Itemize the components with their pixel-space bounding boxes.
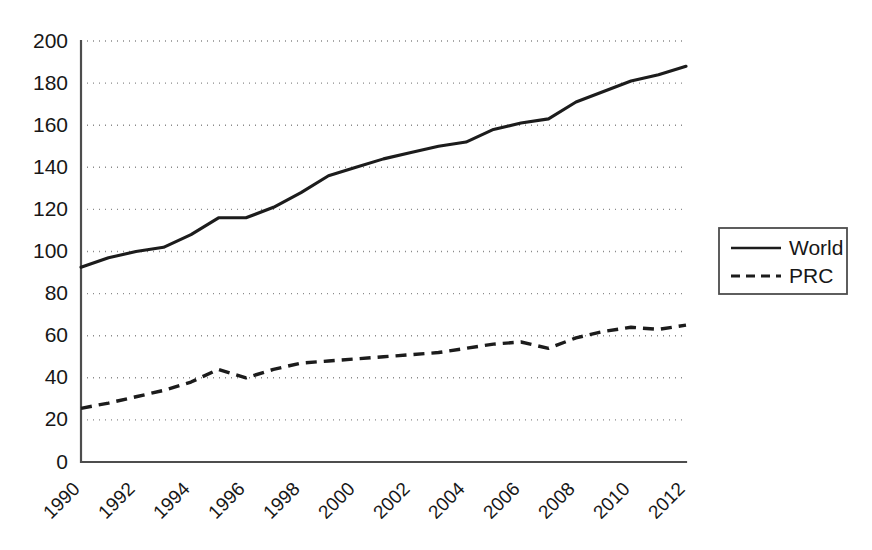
x-tick-label-1992: 1992 [94, 478, 139, 523]
line-chart: 020406080100120140160180200 199019921994… [0, 0, 872, 550]
y-tick-label-120: 120 [33, 197, 68, 220]
series-line-prc [81, 325, 686, 408]
y-tick-label-60: 60 [45, 323, 68, 346]
y-tick-label-100: 100 [33, 239, 68, 262]
x-tick-label-2000: 2000 [314, 478, 359, 523]
x-tick-label-2004: 2004 [424, 478, 469, 523]
y-tick-label-20: 20 [45, 407, 68, 430]
x-tick-label-1994: 1994 [149, 478, 194, 523]
x-tick-label-2008: 2008 [534, 478, 579, 523]
legend-label-world: World [789, 236, 843, 259]
y-tick-label-140: 140 [33, 155, 68, 178]
legend: World PRC [719, 228, 847, 294]
y-tick-label-200: 200 [33, 29, 68, 52]
grid-lines [81, 41, 686, 420]
y-tick-label-80: 80 [45, 281, 68, 304]
x-axis-tick-labels: 1990199219941996199820002002200420062008… [39, 478, 689, 523]
y-tick-label-160: 160 [33, 113, 68, 136]
x-tick-label-2010: 2010 [589, 478, 634, 523]
x-tick-label-1998: 1998 [259, 478, 304, 523]
y-tick-label-0: 0 [56, 450, 68, 473]
legend-label-prc: PRC [789, 264, 833, 287]
x-tick-label-2012: 2012 [644, 478, 689, 523]
y-axis-tick-labels: 020406080100120140160180200 [33, 29, 68, 473]
chart-container: 020406080100120140160180200 199019921994… [0, 0, 872, 550]
x-tick-label-2002: 2002 [369, 478, 414, 523]
y-tick-label-180: 180 [33, 71, 68, 94]
x-tick-label-2006: 2006 [479, 478, 524, 523]
y-tick-label-40: 40 [45, 365, 68, 388]
x-tick-label-1990: 1990 [39, 478, 84, 523]
x-tick-label-1996: 1996 [204, 478, 249, 523]
